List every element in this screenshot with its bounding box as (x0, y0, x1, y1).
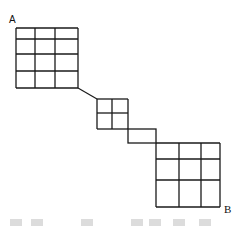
watermark-block (199, 219, 211, 226)
grid-path-diagram (0, 0, 240, 226)
point-label-a: A (9, 14, 16, 25)
point-label-b: B (224, 203, 231, 215)
grid-a (16, 28, 78, 88)
watermark-block (149, 219, 161, 226)
link-rectangle (128, 129, 156, 143)
diagram-canvas: A B (0, 0, 240, 226)
watermark-block (10, 219, 22, 226)
watermark-block (131, 219, 143, 226)
watermark-block (173, 219, 185, 226)
grid-b (156, 143, 220, 207)
grid-small (97, 99, 128, 129)
watermark-block (31, 219, 43, 226)
connector-line (78, 88, 97, 99)
watermark-block (81, 219, 93, 226)
